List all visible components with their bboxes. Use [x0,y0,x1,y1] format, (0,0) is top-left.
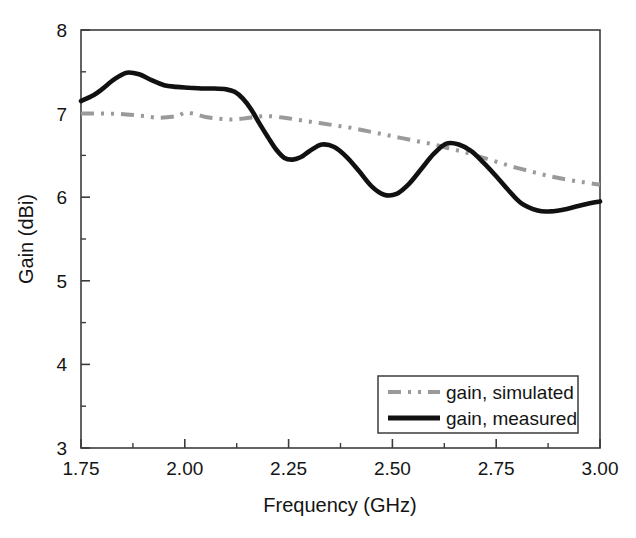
y-axis-tick-labels: 345678 [56,20,67,459]
y-tick-label-7: 7 [56,104,67,125]
y-tick-label-8: 8 [56,20,67,41]
legend: gain, simulated gain, measured [378,376,578,433]
x-axis-title: Frequency (GHz) [263,494,416,516]
figure-container: 1.752.002.252.502.753.00 345678 Frequenc… [0,0,636,538]
legend-label-gain-simulated: gain, simulated [446,382,574,403]
gain-vs-frequency-chart: 1.752.002.252.502.753.00 345678 Frequenc… [0,0,636,538]
x-tick-label-2.50: 2.50 [374,458,411,479]
x-tick-label-1.75: 1.75 [63,458,100,479]
x-axis-tick-labels: 1.752.002.252.502.753.00 [63,458,619,479]
y-tick-label-4: 4 [56,354,67,375]
y-tick-label-3: 3 [56,438,67,459]
series-line-gain-measured [81,72,600,211]
x-tick-label-2.25: 2.25 [270,458,307,479]
x-tick-label-2.00: 2.00 [166,458,203,479]
y-tick-label-5: 5 [56,271,67,292]
legend-label-gain-measured: gain, measured [446,408,577,429]
x-tick-label-2.75: 2.75 [478,458,515,479]
y-tick-label-6: 6 [56,187,67,208]
y-axis-title: Gain (dBi) [15,194,37,284]
x-tick-label-3.00: 3.00 [582,458,619,479]
